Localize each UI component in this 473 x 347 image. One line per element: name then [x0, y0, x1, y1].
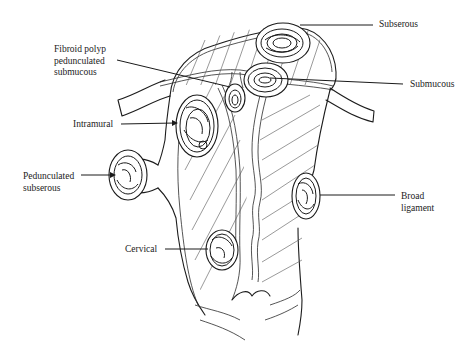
fibroid-polyp: [225, 72, 245, 112]
fibroid-diagram: Subserous Fibroid polyp pedunculated sub…: [0, 0, 473, 347]
leader-intramural: [121, 120, 178, 126]
right-tube: [326, 88, 374, 122]
label-submucous: Submucous: [410, 79, 454, 91]
fibroid-intramural: [176, 95, 218, 157]
label-pedunculated-subserous: Pedunculated subserous: [23, 171, 74, 194]
leader-pedunculated-subserous: [81, 172, 116, 178]
label-cervical: Cervical: [125, 244, 157, 256]
label-intramural: Intramural: [73, 119, 113, 131]
leader-submucous: [270, 78, 403, 84]
label-broad-ligament: Broad ligament: [401, 191, 434, 214]
label-subserous: Subserous: [379, 19, 418, 31]
fibroid-cervical: [206, 230, 238, 270]
label-fibroid-polyp: Fibroid polyp pedunculated submucous: [54, 44, 106, 79]
fibroid-pedunculated-subserous: [109, 150, 158, 200]
fibroid-broad-ligament: [292, 173, 320, 219]
fibroid-subserous: [256, 23, 310, 63]
fibroid-submucous: [244, 63, 288, 97]
